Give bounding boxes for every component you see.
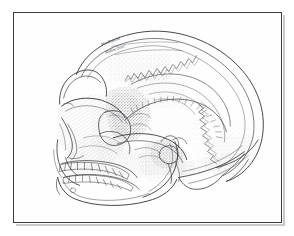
- mental-foramen: [70, 188, 75, 193]
- plate-frame: Maxillofacial Midline Trace: [13, 12, 282, 223]
- figure-page: Maxillofacial Midline Trace: [0, 0, 294, 236]
- skull-illustration: [14, 13, 281, 222]
- skull-shading: [58, 39, 264, 194]
- skull-drawing: [54, 31, 264, 205]
